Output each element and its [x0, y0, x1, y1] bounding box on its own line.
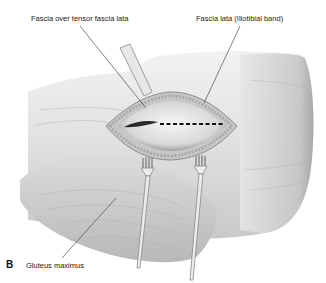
panel-letter: B	[6, 259, 13, 270]
label-gluteus-maximus: Gluteus maximus	[26, 261, 84, 270]
label-fascia-lata: Fascia lata (Iliotibial band)	[196, 14, 283, 23]
thigh-right-side	[240, 54, 313, 233]
surgical-illustration: Fascia over tensor fascia lata Fascia la…	[0, 0, 326, 283]
label-fascia-over-tensor: Fascia over tensor fascia lata	[31, 14, 129, 23]
illustration-canvas	[0, 0, 326, 283]
